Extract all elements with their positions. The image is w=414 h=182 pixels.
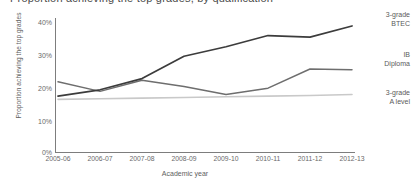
chart-container: Proportion achieving the top grades, by … [0,0,414,182]
series-label-alevel-line2: A level [386,97,410,106]
series-label-alevel-line1: 3-grade [386,89,410,96]
series-label-ib-line2: Diploma [384,59,410,68]
series-label-3-grade-a-level: 3-grade A level [386,88,410,106]
series-label-btec-line1: 3-grade [386,11,410,18]
series-label-ib-diploma: IB Diploma [384,50,410,68]
series-labels: 3-grade BTEC IB Diploma 3-grade A level [0,0,414,182]
series-label-ib-line1: IB [403,51,410,58]
series-label-btec-line2: BTEC [386,19,410,28]
series-label-3-grade-btec: 3-grade BTEC [386,10,410,28]
